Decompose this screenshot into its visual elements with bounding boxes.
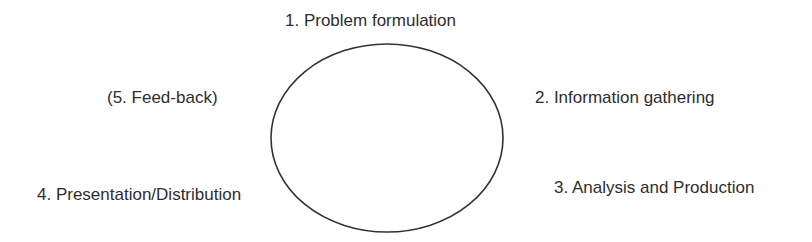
stage-feed-back: (5. Feed-back) bbox=[107, 88, 218, 108]
cycle-ellipse bbox=[0, 0, 812, 242]
stage-analysis-production: 3. Analysis and Production bbox=[554, 178, 754, 198]
stage-problem-formulation: 1. Problem formulation bbox=[285, 11, 456, 31]
stage-information-gathering: 2. Information gathering bbox=[535, 88, 715, 108]
stage-presentation-distribution: 4. Presentation/Distribution bbox=[37, 185, 241, 205]
